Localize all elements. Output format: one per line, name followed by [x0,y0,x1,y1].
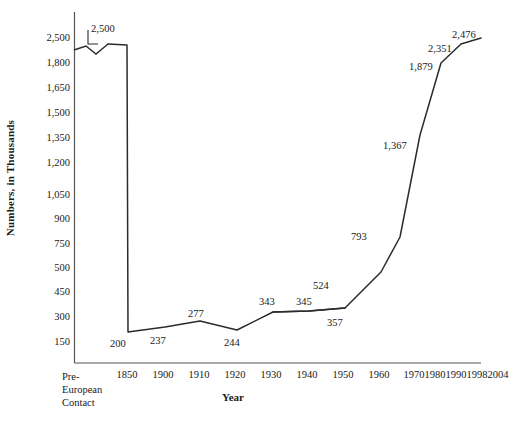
x-tick-label-1960: 1960 [359,370,399,381]
data-label-1980: 1,367 [383,141,407,152]
data-label-1910: 277 [188,309,204,320]
data-label-1940: 345 [296,297,312,308]
data-label-1990: 1,879 [409,62,433,73]
data-label-1930: 343 [259,297,275,308]
y-tick-label-900: 900 [24,214,70,225]
data-series-line-right [273,38,481,312]
y-axis-title: Numbers, in Thousands [4,120,24,236]
x-tick-line-2: European [62,383,126,396]
x-tick-label-1900: 1900 [143,370,183,381]
y-tick-label-1350: 1,350 [24,133,70,144]
x-tick-label-1950: 1950 [323,370,363,381]
data-label-1960: 524 [313,281,329,292]
data-label-1900: 237 [150,336,166,347]
data-label-2004: 2,476 [452,30,476,41]
x-tick-label-2004: 2004 [459,370,513,381]
y-tick-label-1500: 1,500 [24,108,70,119]
y-tick-label-2500: 2,500 [24,33,70,44]
x-tick-label-1910: 1910 [179,370,219,381]
y-tick-label-450: 450 [24,287,70,298]
x-tick-label-1920: 1920 [215,370,255,381]
x-axis-title: Year [222,391,244,403]
data-series-line [108,44,345,332]
y-tick-label-300: 300 [24,312,70,323]
axis-break-marker [74,44,108,54]
y-tick-label-150: 150 [24,337,70,348]
x-tick-label-1850: 1850 [107,370,147,381]
x-tick-label-1940: 1940 [287,370,327,381]
y-tick-label-1650: 1,650 [24,83,70,94]
y-tick-label-1050: 1,050 [24,190,70,201]
y-tick-label-750: 750 [24,239,70,250]
data-label-pre-european-contact: 2,500 [91,24,115,35]
y-tick-label-1200: 1,200 [24,158,70,169]
data-label-1850: 200 [110,339,126,350]
x-tick-label-1930: 1930 [251,370,291,381]
x-tick-line-3: Contact [62,396,126,409]
data-label-1950: 357 [327,318,343,329]
data-label-1970: 793 [351,232,367,243]
data-label-1998: 2,351 [428,44,452,55]
data-label-1920: 244 [224,338,240,349]
y-tick-label-1800: 1,800 [24,58,70,69]
y-tick-label-500: 500 [24,263,70,274]
